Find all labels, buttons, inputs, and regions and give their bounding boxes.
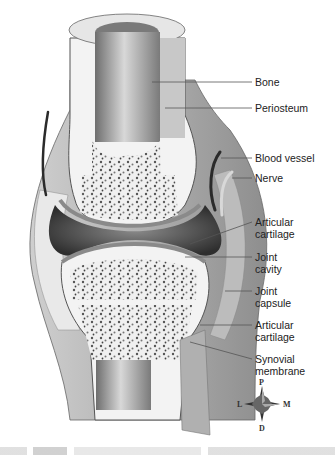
label-bone: Bone [255, 76, 280, 88]
compass-lateral: L [237, 400, 242, 409]
label-nerve: Nerve [255, 172, 283, 184]
label-synovial-membrane: Synovialmembrane [255, 353, 305, 377]
compass-proximal: P [259, 378, 264, 387]
compass-medial: M [283, 400, 291, 409]
label-blood-vessel: Blood vessel [255, 152, 315, 164]
cropped-caption [0, 447, 335, 455]
compass-distal: D [259, 424, 265, 433]
label-joint-capsule: Jointcapsule [255, 285, 291, 309]
label-articular-cartilage-bottom: Articularcartilage [255, 319, 295, 343]
label-articular-cartilage-top: Articularcartilage [255, 216, 295, 240]
label-joint-cavity: Jointcavity [255, 251, 282, 275]
label-periosteum: Periosteum [255, 102, 308, 114]
